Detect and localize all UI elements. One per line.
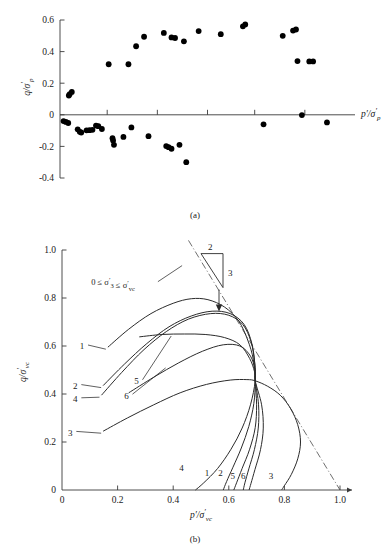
failure-envelope-line xyxy=(188,240,340,490)
curve-bottom-label-2: 2 xyxy=(218,468,223,478)
stress-path-curve-1 xyxy=(108,298,255,490)
panel-b-svg: 124563412563 00.20.40.60.81.0 00.20.40.6… xyxy=(0,228,390,552)
scatter-point xyxy=(310,59,316,65)
scatter-point xyxy=(324,119,330,125)
scatter-point xyxy=(196,28,202,34)
annotation-arrow-head xyxy=(216,305,222,312)
panel-b-curves xyxy=(101,298,300,490)
scatter-point xyxy=(99,126,105,132)
panel-b-caption: (b) xyxy=(190,534,201,544)
stress-range-annotation: 0 ≤ σ′3 ≤ σ′vc xyxy=(91,276,135,292)
panel-b-xtick-labels: 00.20.40.60.81.0 xyxy=(60,495,347,505)
curve-left-label-5: 5 xyxy=(134,376,139,386)
curve-left-label-3: 3 xyxy=(68,428,73,438)
panel-b-xtick-label: 1.0 xyxy=(334,495,346,505)
scatter-point xyxy=(218,31,224,37)
panel-b-xtick-label: 0.4 xyxy=(167,495,179,505)
scatter-point xyxy=(126,61,132,67)
scatter-point xyxy=(177,142,183,148)
scatter-point xyxy=(280,33,286,39)
panel-b-xtick-label: 0.2 xyxy=(112,495,124,505)
scatter-point xyxy=(128,125,134,131)
x-axis-arrow xyxy=(347,487,352,492)
slope-run-label: 3 xyxy=(228,268,233,278)
panel-a-axes xyxy=(60,20,355,178)
scatter-point xyxy=(65,120,71,126)
panel-b-ytick-label: 0.6 xyxy=(44,341,56,351)
panel-a-ytick-label: 0.6 xyxy=(42,15,54,25)
scatter-point xyxy=(161,30,167,36)
panel-b-leader-lines xyxy=(76,336,171,433)
scatter-point xyxy=(133,43,139,49)
scatter-point xyxy=(78,130,84,136)
panel-b-y-axis-title: q/σ′vc xyxy=(16,361,31,382)
scatter-point xyxy=(106,61,112,67)
slope-triangle: 23 xyxy=(201,242,233,312)
scatter-point xyxy=(181,38,187,44)
scatter-point xyxy=(242,22,248,28)
curve-bottom-label-1: 1 xyxy=(205,468,210,478)
curve-left-label-6: 6 xyxy=(124,391,129,401)
scatter-point xyxy=(121,134,127,140)
stress-path-curve-6 xyxy=(129,344,264,490)
scatter-point xyxy=(293,27,299,33)
panel-a-ytick-label: 0.4 xyxy=(42,47,54,57)
failure-line xyxy=(188,240,340,490)
panel-b-xtick-label: 0.6 xyxy=(223,495,235,505)
panel-b-curve-labels: 124563412563 xyxy=(68,341,274,481)
panel-b-ytick-label: 1.0 xyxy=(44,245,56,255)
panel-a-x-axis-title: p′/σ′p xyxy=(360,107,381,122)
panel-a-caption: (a) xyxy=(190,210,200,220)
slope-triangle-shape xyxy=(201,254,223,288)
scatter-point xyxy=(141,34,147,40)
panel-a-ytick-labels: 0.60.40.20-0.2-0.4 xyxy=(39,15,54,183)
leader-line-3 xyxy=(76,431,101,433)
leader-line-2 xyxy=(81,385,101,388)
scatter-point xyxy=(169,146,175,152)
scatter-point xyxy=(146,133,152,139)
panel-a-ytick-label: -0.4 xyxy=(39,173,54,183)
curve-bottom-label-6: 6 xyxy=(241,471,246,481)
annotation-leader-line xyxy=(158,266,182,282)
curve-left-label-1: 1 xyxy=(80,341,85,351)
panel-b-x-axis-title: p′/σ′vc xyxy=(189,508,213,523)
curve-bottom-label-4: 4 xyxy=(179,463,184,473)
panel-a-svg: 0.60.40.20-0.2-0.4 (a) q/σ′pp′/σ′p xyxy=(0,0,390,228)
panel-a-ytick-label: 0.2 xyxy=(42,79,54,89)
scatter-point xyxy=(183,159,189,165)
scatter-point xyxy=(69,89,75,95)
figure-container: 0.60.40.20-0.2-0.4 (a) q/σ′pp′/σ′p 12456… xyxy=(0,0,390,552)
panel-a-datapoints xyxy=(61,22,330,166)
panel-a-ytick-label: -0.2 xyxy=(39,142,54,152)
panel-b-ytick-label: 0.2 xyxy=(44,437,56,447)
scatter-point xyxy=(299,112,305,118)
scatter-point xyxy=(111,142,117,148)
panel-b-ytick-label: 0.8 xyxy=(44,293,56,303)
panel-b-ytick-labels: 00.20.40.60.81.0 xyxy=(44,245,56,495)
panel-a-ytick-label: 0 xyxy=(49,110,54,120)
panel-b-stress-paths: 124563412563 00.20.40.60.81.0 00.20.40.6… xyxy=(0,228,390,552)
panel-a-scatter: 0.60.40.20-0.2-0.4 (a) q/σ′pp′/σ′p xyxy=(0,0,390,228)
scatter-point xyxy=(172,35,178,41)
slope-rise-label: 2 xyxy=(208,242,213,252)
scatter-point xyxy=(261,121,267,127)
panel-b-ytick-label: 0.4 xyxy=(44,389,56,399)
panel-b-xtick-label: 0 xyxy=(60,495,65,505)
curve-bottom-label-5: 5 xyxy=(230,471,235,481)
leader-line-4 xyxy=(81,397,99,398)
scatter-point xyxy=(295,58,301,64)
panel-b-ytick-label: 0 xyxy=(51,485,56,495)
curve-bottom-label-3: 3 xyxy=(269,471,274,481)
panel-b-xtick-label: 0.8 xyxy=(278,495,290,505)
leader-line-5 xyxy=(143,336,172,380)
curve-left-label-2: 2 xyxy=(73,381,78,391)
curve-left-label-4: 4 xyxy=(73,394,78,404)
panel-a-y-axis-title: q/σ′p xyxy=(20,78,35,96)
leader-line-1 xyxy=(88,345,106,349)
